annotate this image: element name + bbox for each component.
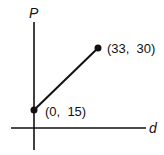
x-axis-label: d xyxy=(149,120,158,136)
y-axis-label: P xyxy=(29,5,39,21)
point-label-end: (33, 30) xyxy=(107,41,155,56)
data-line xyxy=(34,48,98,110)
chart: P d (0, 15) (33, 30) xyxy=(0,0,164,155)
data-point-end xyxy=(95,45,102,52)
point-label-start: (0, 15) xyxy=(45,104,86,119)
data-point-start xyxy=(31,107,38,114)
